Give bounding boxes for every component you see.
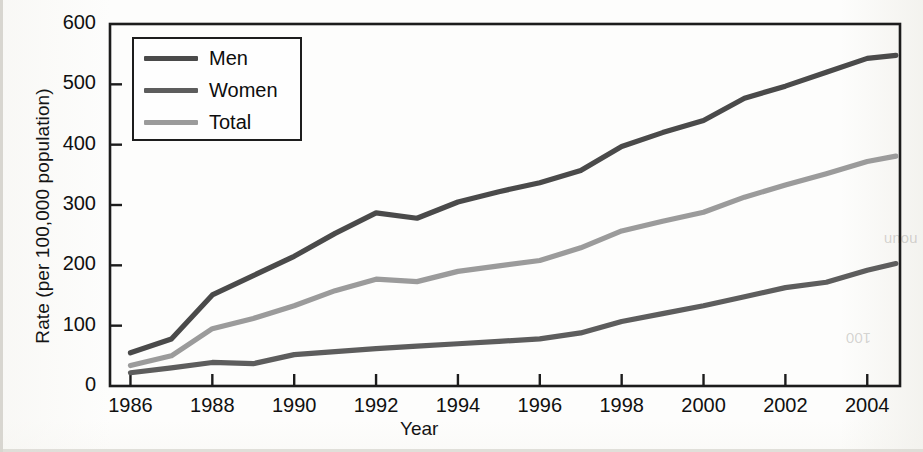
legend-item-total: Total [144, 107, 251, 137]
figure-container: 100noun Rate (per 100,000 population) Ye… [0, 0, 923, 452]
legend-swatch-total [144, 120, 198, 125]
legend-label-women: Women [209, 80, 278, 100]
legend-item-women: Women [144, 75, 278, 105]
legend-label-men: Men [209, 48, 248, 68]
legend-item-men: Men [144, 43, 248, 73]
legend-swatch-men [144, 56, 198, 61]
legend-label-total: Total [209, 112, 251, 132]
legend-swatch-women [144, 88, 198, 93]
legend: Men Women Total [132, 37, 302, 141]
